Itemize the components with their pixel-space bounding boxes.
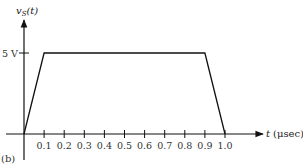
x-tick-label: 0.3	[77, 140, 92, 151]
y-axis-label: vS(t)	[16, 5, 38, 18]
x-tick-label: 0.9	[197, 140, 212, 151]
y-tick-label-5v: 5 V	[2, 48, 18, 59]
x-tick-label: 0.5	[117, 140, 132, 151]
trapezoid-pulse-plot: 0.10.20.30.40.50.60.70.80.91.0 vS(t) t(μ…	[0, 0, 303, 168]
pulse-waveform-line	[24, 53, 225, 134]
panel-label: (b)	[1, 153, 15, 164]
x-tick-label: 0.2	[57, 140, 72, 151]
x-tick-label: 0.8	[177, 140, 192, 151]
x-tick-label: 0.7	[157, 140, 172, 151]
x-tick-label: 1.0	[217, 140, 232, 151]
x-axis-label: t(μsec)	[266, 128, 303, 139]
x-tick-label: 0.4	[97, 140, 112, 151]
x-tick-label: 0.1	[37, 140, 52, 151]
x-tick-label: 0.6	[137, 140, 152, 151]
